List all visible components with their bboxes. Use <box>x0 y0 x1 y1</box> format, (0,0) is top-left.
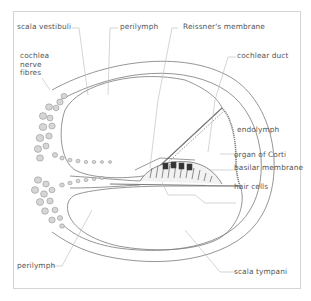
label-basilar-membrane: basilar membrane <box>234 164 303 173</box>
scala-tympani-outline <box>67 186 242 250</box>
leader-lines <box>42 28 236 272</box>
organ-of-corti-drawing <box>135 158 222 184</box>
inner-wall <box>60 73 261 250</box>
label-organ-of-corti: organ of Corti <box>234 151 286 160</box>
nerve-fibres <box>31 93 111 228</box>
label-reissners-membrane: Reissner's membrane <box>183 23 265 32</box>
label-scala-tympani: scala tympani <box>234 268 287 277</box>
label-scala-vestibuli: scala vestibuli <box>17 23 71 32</box>
label-perilymph-bottom: perilymph <box>17 262 55 271</box>
label-perilymph-top: perilymph <box>120 23 158 32</box>
label-hair-cells: hair cells <box>234 183 268 192</box>
label-cochlear-duct: cochlear duct <box>237 52 289 61</box>
label-cochlea-nerve-fibres: cochlea nerve fibres <box>20 52 49 78</box>
label-endolymph: endolymph <box>237 126 279 135</box>
cochlear-duct-wall <box>222 108 240 186</box>
